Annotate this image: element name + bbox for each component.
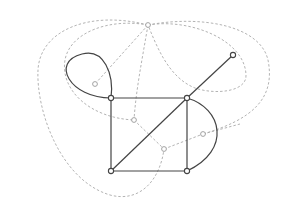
vertex-A [108,95,113,100]
dual-vertex-tri-upper [132,118,137,123]
dual-vertex-loop [93,82,98,87]
dual-edge-lens-outer-edge [203,124,240,134]
dual-edge-outer-around-left [38,20,164,197]
dual-edges [38,20,270,197]
vertex-B [184,95,189,100]
dual-edge-outer-loop [95,25,148,84]
dual-edge-tri-lower-lens [164,134,203,149]
dual-vertices [93,23,206,152]
planar-graph-diagram [0,0,293,204]
edge-BE [187,55,233,98]
vertex-D [184,168,189,173]
edge-CB [111,98,187,171]
dual-vertex-lens [201,132,206,137]
vertex-E [230,52,235,57]
primal-edges [66,53,233,171]
dual-edge-outer-tri-upper [134,25,148,120]
dual-vertex-tri-lower [162,147,167,152]
vertex-C [108,168,113,173]
dual-vertex-outer [146,23,151,28]
